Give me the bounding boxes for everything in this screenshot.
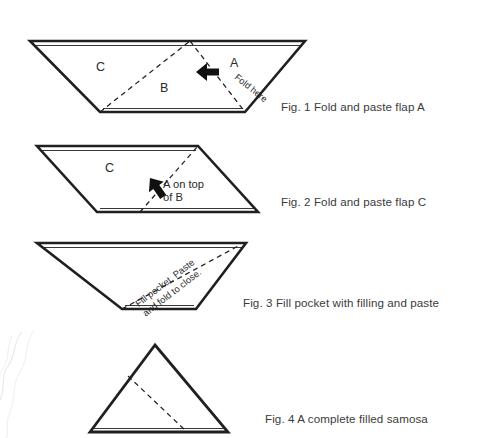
figure-2-caption: Fig. 2 Fold and paste flap C [281, 195, 426, 209]
page-edge-artifact [0, 330, 60, 438]
fig2-parallelogram-group [37, 146, 258, 212]
fig2-label-a-on-top-of-b: A on top of B [163, 178, 204, 204]
fig4-triangle-shape [90, 345, 228, 432]
figure-1-caption: Fig. 1 Fold and paste flap A [281, 100, 425, 114]
fig4-crease [128, 376, 187, 432]
fig1-label-a: A [230, 56, 238, 70]
fig1-crease-left [100, 41, 190, 112]
fig1-label-c: C [96, 60, 105, 74]
fig3-label-fill-pocket: Fill pocket. Paste and fold to close. [133, 257, 204, 319]
figure-4-caption: Fig. 4 A complete filled samosa [265, 412, 428, 426]
fig1-label-fold-here: Fold here [233, 72, 269, 104]
fig4-triangle-group [90, 345, 228, 432]
fig2-label-c: C [105, 161, 114, 175]
fig1-label-b: B [160, 81, 168, 95]
left-arrow-icon [196, 63, 219, 81]
fig2-parallelogram-shape [37, 146, 258, 212]
figure-3-caption: Fig. 3 Fill pocket with filling and past… [243, 296, 439, 310]
